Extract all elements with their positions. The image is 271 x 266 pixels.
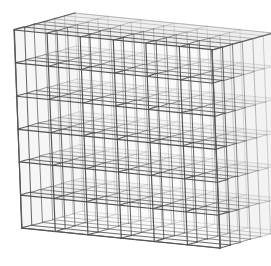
lattice-face	[254, 69, 266, 105]
lattice-face	[253, 36, 265, 72]
lattice-face	[258, 168, 270, 204]
lattice-face	[249, 204, 261, 240]
cube-lattice-svg	[0, 0, 271, 266]
lattice-face	[17, 96, 51, 132]
lattice-face	[248, 171, 259, 207]
lattice-face	[247, 138, 259, 174]
lattice-face	[257, 135, 269, 171]
lattice-face	[243, 39, 255, 75]
lattice-face	[245, 105, 257, 141]
lattice-face	[244, 72, 256, 108]
cube-lattice-figure	[0, 0, 271, 266]
lattice-face	[259, 201, 271, 237]
lattice-face	[255, 102, 266, 138]
